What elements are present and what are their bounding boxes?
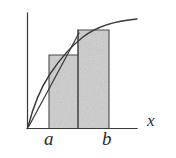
left-rectangle [49, 55, 78, 128]
right-rectangle [78, 30, 109, 128]
upper-bound-label: b [102, 129, 112, 148]
x-axis-label: x [147, 112, 155, 129]
area-under-curve-figure [0, 0, 176, 158]
shaded-region-group [49, 30, 109, 128]
lower-bound-label: a [44, 129, 54, 148]
figure-container: a b x [0, 0, 176, 158]
